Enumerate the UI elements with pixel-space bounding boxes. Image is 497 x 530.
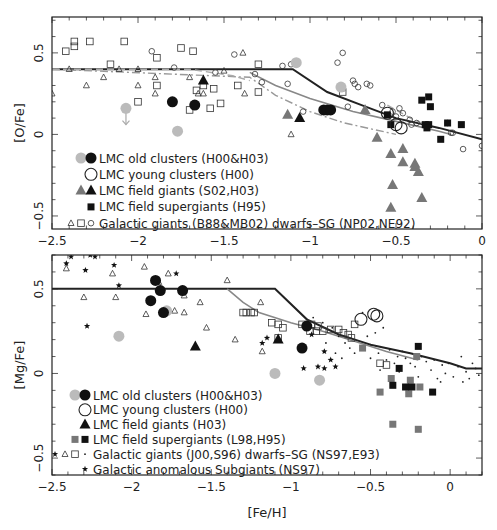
marker-open-triangle (68, 220, 74, 226)
marker-open-square (62, 48, 69, 55)
marker-open-square (72, 451, 79, 458)
marker-dot (325, 342, 327, 344)
legend-label: LMC field giants (H03) (93, 418, 226, 432)
marker-open-square (383, 362, 390, 369)
marker-dot (430, 369, 432, 371)
marker-black-square (408, 384, 415, 391)
marker-black-circle (158, 307, 169, 318)
marker-gray-square (72, 436, 79, 443)
marker-black-square (458, 121, 465, 128)
marker-star (328, 357, 334, 363)
marker-small-open-circle (345, 104, 351, 110)
marker-dot (312, 317, 314, 319)
marker-dot (452, 376, 454, 378)
marker-open-triangle (288, 131, 294, 137)
marker-open-triangle (141, 264, 147, 270)
marker-small-open-circle (259, 79, 265, 85)
marker-dot (437, 378, 439, 380)
y-tick-label: −0.5 (32, 201, 46, 230)
marker-gray-square (413, 353, 420, 360)
x-tick-label: −1.5 (197, 480, 226, 494)
marker-dot (341, 357, 343, 359)
marker-black-square (384, 111, 391, 118)
y-tick-label: 0.5 (32, 279, 46, 298)
marker-open-triangle (63, 265, 69, 271)
panel-top: −2.5−2−1.5−1−0.500.50−0.5[O/Fe]LMC old c… (12, 17, 486, 248)
marker-star (111, 262, 117, 268)
marker-dot (405, 357, 407, 359)
legend-label: Galactic anomalous Subgiants (NS97) (93, 463, 320, 477)
marker-open-square (255, 61, 262, 68)
marker-dot (378, 352, 380, 354)
series-lmc-young-clusters (355, 308, 383, 325)
marker-star (264, 335, 270, 341)
marker-star (52, 451, 58, 457)
legend-label: LMC field supergiants (L98,H95) (93, 433, 286, 447)
marker-open-triangle (81, 294, 87, 300)
marker-open-square (377, 360, 384, 367)
marker-dot (382, 327, 384, 329)
marker-dot (462, 381, 464, 383)
marker-star (68, 253, 74, 259)
marker-black-square (389, 382, 396, 389)
marker-black-circle (325, 104, 336, 115)
marker-dot (397, 356, 399, 358)
abundance-ratio-chart: −2.5−2−1.5−1−0.500.50−0.5[O/Fe]LMC old c… (0, 0, 497, 530)
marker-open-square (71, 43, 78, 50)
marker-dot (335, 352, 337, 354)
marker-gray-circle (291, 57, 302, 68)
marker-black-square (429, 389, 436, 396)
marker-black-triangle (273, 334, 284, 344)
marker-open-triangle (195, 90, 201, 96)
x-tick-label: −0.5 (381, 234, 410, 248)
marker-black-triangle (80, 419, 91, 429)
marker-dot (478, 374, 480, 376)
marker-gray-circle (269, 368, 280, 379)
marker-open-square (135, 99, 142, 106)
marker-small-open-circle (300, 109, 306, 115)
marker-gray-circle (76, 153, 87, 164)
marker-gray-triangle (385, 202, 396, 212)
x-tick-label: −1 (301, 234, 319, 248)
marker-open-triangle (197, 299, 203, 305)
y-tick-label: −0.5 (32, 444, 46, 473)
marker-star (84, 323, 90, 329)
x-axis-label: [Fe/H] (247, 505, 286, 520)
marker-black-square (402, 384, 409, 391)
marker-black-circle (167, 96, 178, 107)
marker-dot (374, 332, 376, 334)
marker-dot (409, 362, 411, 364)
marker-open-triangle (224, 277, 230, 283)
marker-open-square (268, 319, 275, 326)
marker-star (259, 340, 265, 346)
marker-dot (349, 347, 351, 349)
model-line-model-dashed-upper (52, 69, 250, 80)
x-tick-label: 0 (446, 480, 454, 494)
marker-dot (448, 362, 450, 364)
x-tick-label: 0 (478, 234, 486, 248)
marker-dot (370, 344, 372, 346)
marker-dot (421, 356, 423, 358)
marker-gray-square (388, 375, 395, 382)
y-tick-label: 0 (32, 370, 46, 378)
marker-gray-circle (70, 390, 81, 401)
series-galactic-giants-triangles (49, 50, 294, 137)
legend: LMC old clusters (H00&H03)LMC young clus… (52, 389, 380, 477)
marker-dot (331, 327, 333, 329)
marker-gray-square (389, 421, 396, 428)
marker-gray-triangle (397, 156, 408, 166)
legend-label: LMC young clusters (H00) (99, 168, 254, 182)
marker-dot (370, 357, 372, 359)
marker-black-square (415, 343, 422, 350)
marker-open-square (255, 89, 262, 96)
y-axis-label: [O/Fe] (12, 103, 27, 143)
marker-star (321, 348, 327, 354)
marker-star (332, 363, 338, 369)
marker-gray-square (416, 384, 423, 391)
marker-open-square (107, 61, 114, 68)
marker-black-circle (80, 390, 91, 401)
marker-gray-square (359, 345, 366, 352)
marker-dot (322, 322, 324, 324)
marker-open-square (190, 48, 197, 55)
marker-small-open-circle (285, 81, 291, 87)
